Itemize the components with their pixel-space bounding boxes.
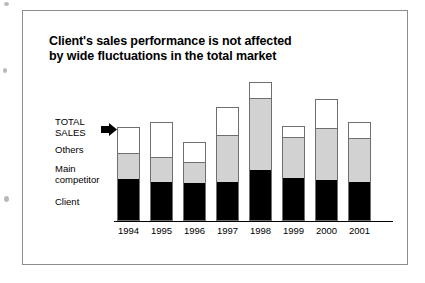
chart-screenshot: Client's sales performance is not affect… <box>0 0 425 283</box>
segment-client-1994 <box>118 179 139 220</box>
bar-1994[interactable] <box>117 127 140 221</box>
segment-client-1995 <box>151 182 172 220</box>
segment-main-competitor-2000 <box>316 128 337 180</box>
segment-others-2001 <box>349 123 370 138</box>
bar-1999[interactable] <box>282 126 305 221</box>
segment-client-2001 <box>349 182 370 220</box>
x-tick-label-1996: 1996 <box>178 225 211 236</box>
bar-1997[interactable] <box>216 107 239 221</box>
bar-1995[interactable] <box>150 122 173 221</box>
segment-others-2000 <box>316 100 337 128</box>
x-tick-label-1999: 1999 <box>277 225 310 236</box>
scan-artifact-speck <box>3 68 7 73</box>
segment-main-competitor-1998 <box>250 98 271 170</box>
x-tick-label-1994: 1994 <box>112 225 145 236</box>
segment-client-1997 <box>217 182 238 220</box>
segment-others-1996 <box>184 143 205 162</box>
segment-others-1999 <box>283 127 304 137</box>
x-tick-label-1998: 1998 <box>244 225 277 236</box>
segment-main-competitor-1996 <box>184 162 205 183</box>
plot-area: TOTAL SALES Others Main competitor Clien… <box>23 11 409 266</box>
segment-main-competitor-1997 <box>217 135 238 182</box>
segment-main-competitor-1999 <box>283 137 304 178</box>
segment-client-2000 <box>316 180 337 220</box>
segment-client-1998 <box>250 170 271 220</box>
bar-2000[interactable] <box>315 99 338 221</box>
x-tick-label-1997: 1997 <box>211 225 244 236</box>
segment-others-1997 <box>217 108 238 135</box>
segment-main-competitor-1994 <box>118 153 139 179</box>
x-tick-label-2000: 2000 <box>310 225 343 236</box>
segment-client-1996 <box>184 183 205 220</box>
segment-others-1994 <box>118 128 139 153</box>
slide-frame: Client's sales performance is not affect… <box>22 10 408 265</box>
segment-main-competitor-2001 <box>349 138 370 182</box>
scan-artifact-speck <box>4 2 9 6</box>
segment-client-1999 <box>283 178 304 220</box>
bar-2001[interactable] <box>348 122 371 221</box>
scan-artifact-speck <box>4 196 9 202</box>
segment-others-1995 <box>151 123 172 157</box>
bar-1996[interactable] <box>183 142 206 221</box>
segment-main-competitor-1995 <box>151 157 172 182</box>
segment-others-1998 <box>250 83 271 98</box>
x-axis-line <box>114 221 393 222</box>
x-tick-label-2001: 2001 <box>343 225 376 236</box>
bar-1998[interactable] <box>249 82 272 221</box>
x-tick-label-1995: 1995 <box>145 225 178 236</box>
